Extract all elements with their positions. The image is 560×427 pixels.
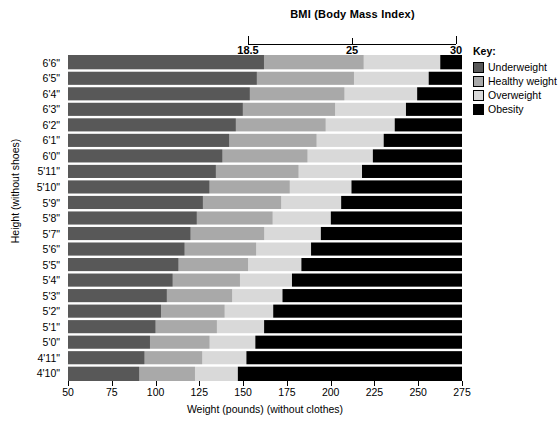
- legend-item: Overweight: [473, 88, 559, 102]
- y-tick-label: 5'10": [37, 181, 60, 193]
- legend-title: Key:: [473, 45, 559, 57]
- legend-label: Healthy weight: [488, 75, 557, 87]
- legend-swatch-icon: [473, 62, 484, 73]
- row-gridline: [68, 271, 462, 273]
- row-gridline: [68, 364, 462, 366]
- y-tick-label: 5'2": [43, 305, 60, 317]
- row-gridline: [68, 256, 462, 258]
- row-gridline: [68, 287, 462, 289]
- legend-label: Underweight: [488, 61, 547, 73]
- y-tick-label: 6'2": [43, 119, 60, 131]
- y-tick-label: 5'5": [43, 259, 60, 271]
- y-tick-label: 6'3": [43, 103, 60, 115]
- row-gridline: [68, 100, 462, 102]
- x-tick-label: 50: [62, 386, 74, 398]
- row-gridline: [68, 209, 462, 211]
- y-tick-label: 5'8": [43, 212, 60, 224]
- row-gridline: [68, 302, 462, 304]
- legend-item: Healthy weight: [473, 74, 559, 88]
- x-tick-label: 275: [453, 386, 471, 398]
- y-tick-label: 4'10": [37, 367, 60, 379]
- legend-items: UnderweightHealthy weightOverweightObesi…: [473, 60, 559, 116]
- x-axis-title: Weight (pounds) (without clothes): [68, 403, 462, 415]
- row-gridline: [68, 194, 462, 196]
- y-tick-label: 5'9": [43, 197, 60, 209]
- x-tick-label-group: 5075100125150175200225250275: [0, 386, 560, 402]
- x-tick-label: 75: [106, 386, 118, 398]
- legend: Key: UnderweightHealthy weightOverweight…: [473, 45, 559, 116]
- x-tick-label: 225: [366, 386, 384, 398]
- y-tick-label: 6'4": [43, 88, 60, 100]
- row-gridline: [68, 178, 462, 180]
- y-tick-label: 6'5": [43, 72, 60, 84]
- x-tick-label: 175: [278, 386, 296, 398]
- legend-item: Obesity: [473, 102, 559, 116]
- y-tick-label: 5'11": [38, 165, 60, 177]
- x-tick-label: 200: [322, 386, 340, 398]
- row-gridline: [68, 225, 462, 227]
- bmi-axis-title: BMI (Body Mass Index): [180, 8, 525, 20]
- row-gridline: [68, 162, 462, 164]
- x-tick-label: 150: [234, 386, 252, 398]
- y-tick-label: 5'6": [43, 243, 60, 255]
- y-tick-label: 5'1": [43, 321, 60, 333]
- row-gridline: [68, 318, 462, 320]
- plot-area: [68, 55, 462, 381]
- legend-item: Underweight: [473, 60, 559, 74]
- row-gridline: [68, 69, 462, 71]
- legend-swatch-icon: [473, 76, 484, 87]
- y-tick-label: 6'1": [43, 134, 60, 146]
- row-gridline: [68, 85, 462, 87]
- row-gridline: [68, 116, 462, 118]
- legend-swatch-icon: [473, 90, 484, 101]
- y-tick-label: 5'0": [43, 336, 60, 348]
- y-axis-title: Height (without shoes): [9, 91, 21, 291]
- bmi-chart: BMI (Body Mass Index) 18.52530 6'6"6'5"6…: [0, 0, 560, 427]
- y-tick-label: 5'7": [43, 228, 60, 240]
- y-tick-label: 6'6": [43, 57, 60, 69]
- bmi-tick: [456, 36, 457, 44]
- y-tick-label: 6'0": [43, 150, 60, 162]
- row-gridline: [68, 240, 462, 242]
- row-gridline: [68, 333, 462, 335]
- bmi-tick: [248, 36, 249, 44]
- x-tick-label: 100: [147, 386, 165, 398]
- x-tick-label: 250: [409, 386, 427, 398]
- x-tick-label: 125: [191, 386, 209, 398]
- row-gridline: [68, 349, 462, 351]
- y-tick-label: 5'4": [43, 274, 60, 286]
- y-tick-label: 4'11": [38, 352, 60, 364]
- row-gridline: [68, 131, 462, 133]
- legend-swatch-icon: [473, 104, 484, 115]
- legend-label: Obesity: [488, 103, 524, 115]
- y-tick-label: 5'3": [43, 290, 60, 302]
- bmi-band-svg: [68, 55, 462, 381]
- row-gridline: [68, 147, 462, 149]
- legend-label: Overweight: [488, 89, 541, 101]
